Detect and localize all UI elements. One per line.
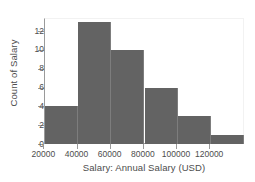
y-tick-label: 4 — [10, 102, 44, 111]
y-tick-label-wrap: 4 — [0, 102, 44, 111]
y-tick-label-wrap: 10 — [0, 45, 44, 54]
histogram-bar — [111, 50, 144, 144]
histogram-bar — [178, 116, 211, 144]
y-tick-label-wrap: 6 — [0, 83, 44, 92]
bars-layer — [45, 18, 244, 144]
y-tick-label: 0 — [10, 140, 44, 149]
y-tick-label-wrap: 0 — [0, 140, 44, 149]
y-tick-label-wrap: 12 — [0, 27, 44, 36]
histogram-bar — [211, 135, 244, 144]
y-tick-label: 6 — [10, 83, 44, 92]
y-tick-label: 8 — [10, 64, 44, 73]
y-tick-label-wrap: 2 — [0, 121, 44, 130]
histogram-bar — [45, 106, 78, 144]
y-tick-label: 10 — [10, 45, 44, 54]
histogram-bar — [78, 22, 111, 144]
x-tick-label-wrap: 120000 — [179, 149, 239, 160]
y-tick-label-wrap: 8 — [0, 64, 44, 73]
histogram-bar — [145, 88, 178, 144]
x-tick-label: 120000 — [179, 149, 239, 160]
y-tick-label: 2 — [10, 121, 44, 130]
y-tick-label: 12 — [10, 27, 44, 36]
histogram-figure: Count of Salary 024681012 20000400006000… — [0, 0, 255, 182]
x-axis-title: Salary: Annual Salary (USD) — [44, 162, 244, 173]
